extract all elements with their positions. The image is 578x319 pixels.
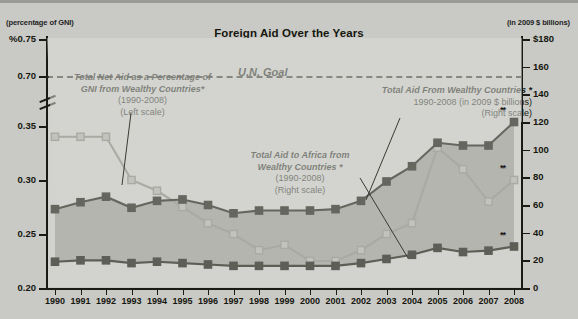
series-gni-percentage-marker-1997 [230,230,237,237]
right-axis-tick [522,94,530,96]
right-axis-tick [522,150,530,152]
series-africa-aid-marker-2002 [357,260,364,267]
right-axis-tick-label-8: 160 [533,61,549,72]
estimate-marker-africa: ** [500,230,505,240]
series-africa-aid-marker-1990 [51,258,58,265]
series-gni-percentage-marker-2006 [459,166,466,173]
right-axis-tick-label-0: 0 [533,282,538,293]
series-total-aid-marker-2007 [485,142,492,149]
series-gni-percentage-marker-2007 [485,198,492,205]
series-africa-aid-marker-1997 [230,262,237,269]
series-africa-aid-marker-2001 [332,262,339,269]
left-axis-tick-label-1: 0.70 [0,70,36,81]
series-africa-aid-marker-1992 [102,257,109,264]
series-africa-aid-marker-1995 [179,260,186,267]
series-africa-aid-marker-2007 [485,247,492,254]
series-africa-aid-marker-2000 [306,262,313,269]
series-gni-percentage-marker-1999 [281,241,288,248]
left-axis-tick [39,39,47,41]
series-gni-percentage-marker-1991 [77,133,84,140]
x-axis-tick [310,289,311,295]
series-total-aid-marker-1996 [204,201,211,208]
series-total-aid-marker-1992 [102,193,109,200]
x-axis-tick [361,289,362,295]
series-africa-aid-marker-1998 [255,262,262,269]
series-gni-percentage-marker-1998 [255,247,262,254]
series-total-aid-marker-1995 [179,196,186,203]
x-axis-tick [183,289,184,295]
series-africa-aid-marker-2004 [408,251,415,258]
series-gni-percentage-marker-2008 [510,176,517,183]
series-gni-percentage-marker-2004 [408,220,415,227]
series-africa-aid-marker-2003 [383,255,390,262]
x-axis-tick [234,289,235,295]
series-total-aid-marker-2002 [357,197,364,204]
series-total-aid-marker-2005 [434,139,441,146]
series-africa-aid-marker-1999 [281,262,288,269]
x-axis-tick [132,289,133,295]
series-total-aid-marker-2004 [408,163,415,170]
series-total-aid-marker-1998 [255,207,262,214]
right-axis-tick [522,233,530,235]
series-africa-aid-marker-1994 [153,258,160,265]
series-gni-percentage-marker-1995 [179,203,186,210]
series-overlay [0,0,578,319]
left-axis-tick-label-3: 0.30 [0,174,36,185]
right-axis-tick-label-3: 60 [533,199,544,210]
series-total-aid-marker-2003 [383,178,390,185]
right-axis-tick-label-6: 120 [533,116,549,127]
x-axis-tick [438,289,439,295]
right-axis-tick [522,122,530,124]
x-axis-tick [412,289,413,295]
x-axis-tick [106,289,107,295]
estimate-marker-total: ** [500,105,505,115]
x-axis-tick [81,289,82,295]
x-axis-tick [336,289,337,295]
series-africa-aid-marker-1996 [204,261,211,268]
left-axis-tick-label-5: 0.20 [0,282,36,293]
right-axis-tick-label-9: $180 [533,33,554,44]
series-total-aid-marker-2006 [459,142,466,149]
series-total-aid-marker-2000 [306,207,313,214]
series-gni-percentage-marker-2002 [357,247,364,254]
x-axis-tick [387,289,388,295]
right-axis-tick [522,260,530,262]
right-axis-tick [522,39,530,41]
series-africa-aid-marker-1991 [77,257,84,264]
estimate-marker-gni: ** [500,163,505,173]
series-total-aid-marker-1999 [281,207,288,214]
left-axis-tick-label-0: %0.75 [0,33,36,44]
right-axis-tick [522,67,530,69]
series-total-aid-marker-1990 [51,206,58,213]
series-total-aid-marker-1997 [230,210,237,217]
x-axis-tick [208,289,209,295]
x-axis-tick [285,289,286,295]
series-africa-aid-marker-1993 [128,260,135,267]
series-gni-percentage-marker-2003 [383,230,390,237]
series-africa-aid-marker-2005 [434,244,441,251]
series-gni-percentage-marker-1993 [128,176,135,183]
series-gni-percentage-marker-1996 [204,220,211,227]
right-axis-tick [522,288,530,290]
series-total-aid-marker-1991 [77,199,84,206]
series-gni-percentage-marker-1994 [153,187,160,194]
series-total-aid-marker-1993 [128,204,135,211]
series-total-aid-marker-2001 [332,206,339,213]
series-africa-aid-marker-2006 [459,248,466,255]
x-axis-tick [55,289,56,295]
series-gni-percentage-marker-1992 [102,133,109,140]
right-axis-tick-label-2: 40 [533,227,544,238]
series-total-aid-marker-2008 [510,118,517,125]
right-axis-tick-label-5: 100 [533,144,549,155]
left-axis-tick [39,234,47,236]
x-axis-tick [514,289,515,295]
left-axis-tick [39,180,47,182]
left-axis-tick [39,76,47,78]
left-axis-tick-label-2: 0.35 [0,120,36,131]
series-total-aid-marker-1994 [153,197,160,204]
left-axis-tick [39,126,47,128]
left-axis-tick-label-4: 0.25 [0,228,36,239]
right-axis-tick-label-7: 140 [533,88,549,99]
foreign-aid-chart: (percentage of GNI) (in 2009 $ billions)… [0,0,578,319]
left-axis-tick [39,288,47,290]
